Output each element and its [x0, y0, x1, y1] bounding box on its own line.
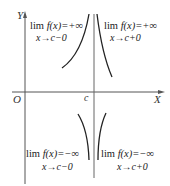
annotation-bottom-left: lim f(x)=−∞	[26, 148, 79, 159]
annotation-top-right-subscript: x→c+0	[110, 33, 141, 43]
lim-text: lim	[26, 148, 40, 159]
expr-text: f(x)=+∞	[121, 20, 157, 31]
lim-text: lim	[104, 20, 118, 31]
annotation-bottom-left-subscript: x→c−0	[42, 162, 73, 172]
annotation-top-right: lim f(x)=+∞	[104, 20, 157, 31]
y-axis-arrow-icon	[23, 11, 27, 18]
curve-bottom-left	[78, 114, 89, 160]
annotation-top-left: lim f(x)=+∞	[30, 20, 83, 31]
expr-text: f(x)=−∞	[118, 148, 154, 159]
annotation-bottom-right-subscript: x→c+0	[117, 162, 148, 172]
y-axis-label: Y	[17, 9, 23, 21]
c-label: c	[84, 92, 88, 103]
x-axis-label: X	[154, 93, 161, 105]
expr-text: f(x)=+∞	[47, 20, 83, 31]
origin-label: O	[13, 93, 21, 105]
expr-text: f(x)=−∞	[43, 148, 79, 159]
lim-text: lim	[101, 148, 115, 159]
annotation-top-left-subscript: x→c−0	[36, 33, 67, 43]
lim-text: lim	[30, 20, 44, 31]
annotation-bottom-right: lim f(x)=−∞	[101, 148, 154, 159]
